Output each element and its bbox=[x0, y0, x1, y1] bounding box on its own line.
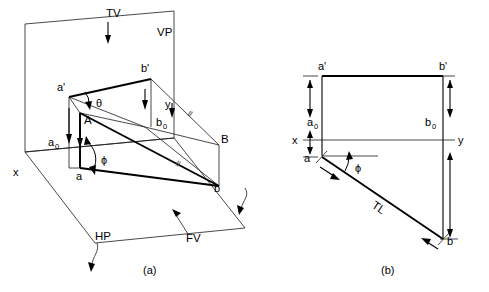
label-y-axis-b: y bbox=[458, 134, 464, 146]
label-point-A: A bbox=[84, 114, 92, 126]
vp-label: VP bbox=[157, 26, 173, 38]
phi-label: ϕ bbox=[101, 154, 107, 166]
right-curl bbox=[241, 188, 247, 209]
dim-arrow-bprime-head-up bbox=[447, 80, 453, 88]
dim-arrow-a0-head-up bbox=[307, 130, 313, 138]
dim-arrow-b0-head-up bbox=[447, 152, 453, 160]
dim-arrow-bprime-head-down bbox=[447, 109, 453, 118]
panel-a-group: TV VP HP FV bbox=[13, 7, 247, 276]
projector-aprime-head bbox=[66, 134, 72, 144]
label-a-lower-b: a bbox=[304, 152, 311, 164]
figure-root: TV VP HP FV bbox=[0, 0, 489, 292]
label-a-sub0-base: a bbox=[48, 136, 55, 148]
true-length-label: TL bbox=[370, 199, 388, 217]
projector-bprime-head bbox=[142, 100, 148, 110]
label-point-B: B bbox=[221, 133, 229, 145]
hp-outline bbox=[25, 138, 245, 243]
tv-annotation: TV bbox=[105, 7, 121, 44]
line-a-b-top-view bbox=[80, 168, 219, 186]
label-b-sub0: b 0 bbox=[156, 116, 167, 131]
line-a-b-top-view-b bbox=[322, 157, 443, 239]
label-a-sub0-b-sub: 0 bbox=[314, 122, 318, 131]
phi-arc-arrow-top bbox=[84, 136, 91, 145]
label-a-sub0-sub: 0 bbox=[55, 142, 59, 151]
tl-dim-arrow-left-shaft bbox=[320, 167, 334, 176]
phi-arc-b-arrow bbox=[346, 151, 353, 160]
vp-outline bbox=[25, 11, 174, 152]
hp-curl-arrow bbox=[88, 262, 95, 272]
label-a-sub0-b: a 0 bbox=[307, 116, 318, 131]
vertical-plane-vp bbox=[25, 11, 174, 152]
fv-leader-arrow bbox=[172, 209, 181, 217]
label-b-sub0-b-base: b bbox=[425, 116, 431, 128]
caption-panel-b: (b) bbox=[381, 264, 394, 276]
label-y-axis-a: y bbox=[165, 98, 171, 110]
hp-curl bbox=[92, 243, 98, 266]
parallel-mark-lower: ll bbox=[174, 159, 182, 169]
theta-arc-arrow bbox=[85, 101, 92, 110]
label-a-prime-b: a' bbox=[318, 60, 326, 72]
construction-bprime-to-B bbox=[151, 79, 219, 145]
label-a-prime: a' bbox=[57, 81, 65, 93]
label-x-axis-a: x bbox=[13, 166, 19, 178]
hp-label: HP bbox=[95, 230, 111, 242]
label-b-prime: b' bbox=[141, 62, 149, 74]
panel-b-group: x y TL ϕ bbox=[292, 60, 464, 276]
label-a-sub0-b-base: a bbox=[307, 116, 314, 128]
caption-panel-a: (a) bbox=[143, 264, 156, 276]
fv-leader bbox=[176, 215, 188, 234]
technical-drawing-canvas: TV VP HP FV bbox=[0, 0, 489, 292]
label-b-sub0-b-sub: 0 bbox=[432, 122, 436, 131]
angle-phi-b: ϕ bbox=[345, 151, 361, 174]
label-a-lower: a bbox=[76, 170, 83, 182]
tv-arrow-head bbox=[105, 35, 111, 44]
label-b-sub0-b: b 0 bbox=[425, 116, 436, 131]
tv-label: TV bbox=[106, 7, 121, 19]
right-curl-arrow bbox=[237, 205, 244, 215]
horizontal-plane-hp bbox=[25, 138, 245, 243]
label-a-sub0: a 0 bbox=[48, 136, 59, 151]
label-b-prime-b: b' bbox=[439, 60, 447, 72]
label-b-sub0-base: b bbox=[156, 116, 162, 128]
label-x-axis-b: x bbox=[292, 134, 298, 146]
label-b-lower-b: b bbox=[447, 235, 453, 247]
line-A-B-true bbox=[80, 113, 219, 186]
label-b-sub0-sub: 0 bbox=[163, 122, 167, 131]
fv-annotation: FV bbox=[172, 209, 201, 244]
dim-arrow-aprime-head-up bbox=[307, 80, 313, 88]
phi-label-b: ϕ bbox=[355, 162, 361, 174]
angle-theta: θ bbox=[85, 92, 102, 110]
line-a-prime-b-prime bbox=[69, 79, 151, 97]
theta-label: θ bbox=[96, 97, 102, 109]
label-b-lower: b bbox=[214, 182, 220, 194]
